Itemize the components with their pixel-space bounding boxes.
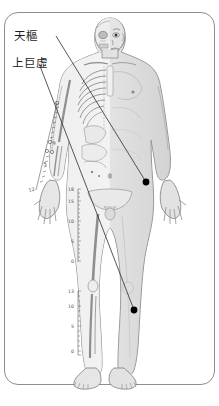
lower-ruler-label-13: 13	[68, 289, 74, 294]
nipple-marker	[131, 90, 134, 93]
upper-ruler-label-5: 5	[71, 239, 74, 244]
upper-ruler-label-10: 10	[68, 219, 74, 224]
acupoint-label-shangjuxu: 上巨虛	[12, 58, 48, 70]
lower-ruler-label-0: 0	[71, 349, 74, 354]
upper-ruler-label-0: 0	[71, 259, 74, 264]
lower-ruler-label-10: 10	[68, 304, 74, 309]
upper-ruler-label-18: 18	[68, 187, 74, 192]
feet	[74, 368, 136, 389]
navel	[108, 174, 112, 179]
page-root: 9 5 12 18 15 10 5 0	[0, 0, 219, 406]
lower-ruler-label-5: 5	[71, 324, 74, 329]
upper-ruler-label-15: 15	[68, 199, 74, 204]
acupoint-shangjuxu[interactable]	[131, 307, 138, 314]
arm-scale-label-5: 5	[43, 161, 47, 167]
acupoint-tianshu[interactable]	[143, 179, 150, 186]
groin	[105, 208, 115, 220]
arm-scale-label-12: 12	[28, 187, 35, 193]
acupoint-label-tianshu: 天樞	[14, 31, 38, 43]
